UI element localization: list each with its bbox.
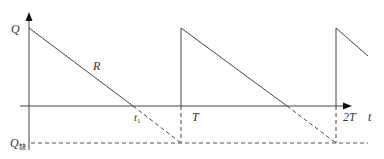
cycle2-depletion-solid	[181, 28, 287, 106]
label-t-axis: t	[368, 110, 372, 124]
label-2T: 2T	[343, 110, 357, 124]
label-Q-shortage: Q缺	[10, 136, 26, 151]
label-Q-shortage-sub: 缺	[19, 142, 26, 151]
label-Q: Q	[11, 22, 20, 36]
label-T: T	[192, 110, 200, 124]
label-t1-sub: 1	[137, 117, 141, 125]
cycle3-depletion-solid	[336, 28, 368, 56]
label-Q-shortage-main: Q	[10, 136, 19, 150]
diagram-canvas: Q R t1 T 2T t Q缺	[0, 0, 384, 159]
label-R: R	[92, 59, 101, 73]
x-axis-arrow-icon	[343, 103, 352, 110]
cycle2-depletion-dashed	[287, 106, 336, 143]
cycle1-depletion-solid	[29, 28, 133, 106]
y-axis-arrow-icon	[26, 12, 33, 21]
inventory-diagram: Q R t1 T 2T t Q缺	[0, 0, 384, 159]
label-t1: t1	[134, 111, 141, 125]
